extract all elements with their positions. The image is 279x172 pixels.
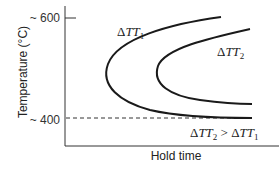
ytick-label-600: ~ 600 — [30, 11, 61, 25]
chart: ~ 600 ~ 400 Temperature (°C) Hold time Δ… — [0, 0, 279, 172]
x-axis-label: Hold time — [151, 149, 202, 163]
curve-dtt2 — [157, 29, 252, 104]
annotation-comparison: ΔTT2 > ΔTT1 — [190, 125, 259, 142]
ytick-label-400: ~ 400 — [30, 113, 61, 127]
annotation-dtt1: ΔTT1 — [117, 24, 144, 41]
annotation-dtt2: ΔTT2 — [217, 44, 244, 61]
y-axis-label: Temperature (°C) — [16, 26, 30, 118]
